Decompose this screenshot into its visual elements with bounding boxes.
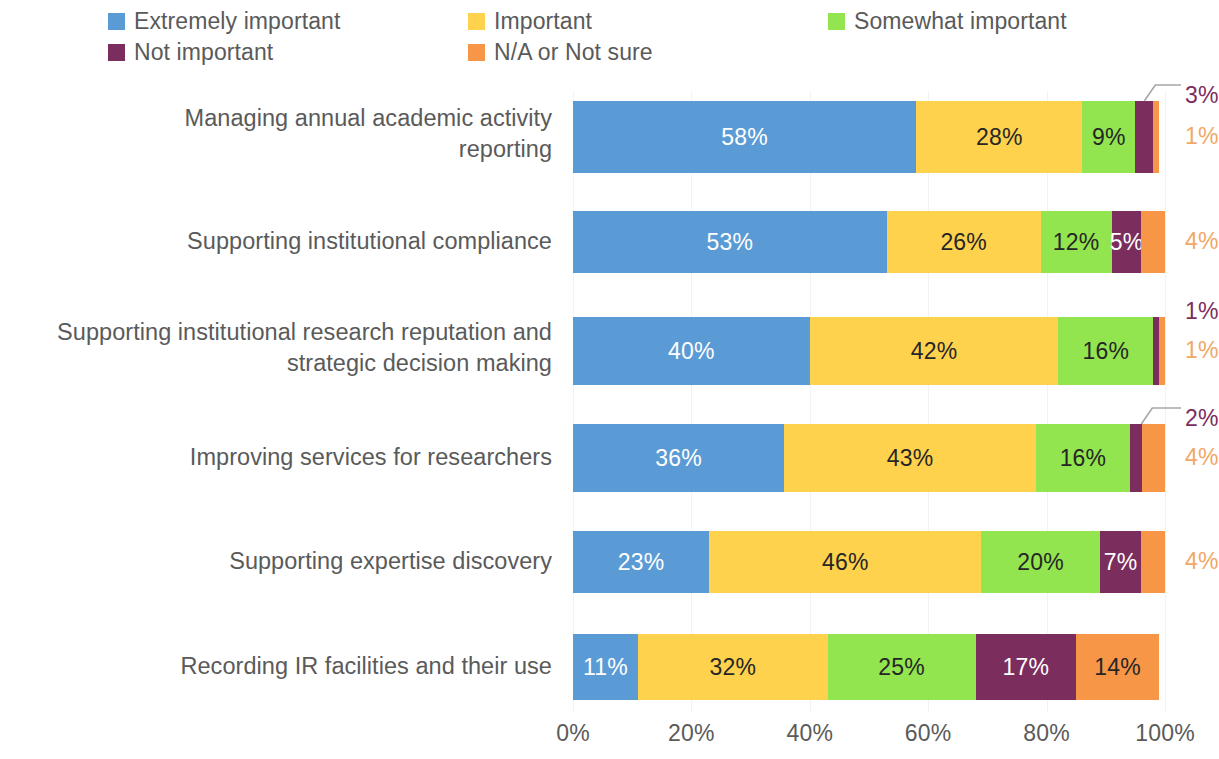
gridline-60 bbox=[928, 92, 929, 712]
bar-segment[interactable]: 23% bbox=[573, 531, 709, 593]
category-label: Improving services for researchers bbox=[0, 442, 552, 473]
segment-value-label: 28% bbox=[976, 126, 1023, 149]
bar-segment[interactable] bbox=[1141, 531, 1165, 593]
segment-value-label: 26% bbox=[940, 231, 987, 254]
bar-segment[interactable] bbox=[1135, 101, 1153, 173]
segment-value-label: 32% bbox=[710, 656, 757, 679]
x-axis-tick-label: 60% bbox=[905, 720, 952, 747]
segment-value-label: 7% bbox=[1104, 551, 1138, 574]
category-label: Managing annual academic activity report… bbox=[172, 103, 552, 164]
bar-segment[interactable]: 26% bbox=[887, 211, 1041, 273]
bar-segment[interactable]: 5% bbox=[1112, 211, 1142, 273]
x-axis-tick-label: 40% bbox=[786, 720, 833, 747]
bar-segment[interactable]: 7% bbox=[1100, 531, 1141, 593]
outside-label-na-not-sure: 4% bbox=[1185, 550, 1219, 573]
outside-label-na-not-sure: 4% bbox=[1185, 230, 1219, 253]
segment-value-label: 42% bbox=[911, 340, 958, 363]
gridline-20 bbox=[691, 92, 692, 712]
outside-label-not-important: 1% bbox=[1185, 300, 1219, 323]
bar-segment[interactable]: 42% bbox=[810, 317, 1059, 385]
bar-row[interactable]: 40%42%16% bbox=[573, 317, 1165, 385]
bar-row[interactable]: 36%43%16% bbox=[573, 424, 1165, 492]
segment-value-label: 5% bbox=[1110, 231, 1144, 254]
bar-segment[interactable] bbox=[1141, 211, 1165, 273]
gridline-0 bbox=[573, 92, 574, 712]
outside-label-not-important: 2% bbox=[1185, 407, 1219, 430]
outside-label-na-not-sure: 4% bbox=[1185, 446, 1219, 469]
bar-row[interactable]: 58%28%9% bbox=[573, 101, 1165, 173]
segment-value-label: 36% bbox=[655, 447, 702, 470]
segment-value-label: 16% bbox=[1060, 447, 1107, 470]
x-axis-tick-label: 80% bbox=[1023, 720, 1070, 747]
segment-value-label: 25% bbox=[878, 656, 925, 679]
outside-label-na-not-sure: 1% bbox=[1185, 125, 1219, 148]
segment-value-label: 9% bbox=[1092, 126, 1126, 149]
bar-segment[interactable] bbox=[1153, 101, 1159, 173]
bar-segment[interactable]: 17% bbox=[976, 634, 1077, 700]
bar-segment[interactable]: 58% bbox=[573, 101, 916, 173]
bar-segment[interactable]: 9% bbox=[1082, 101, 1135, 173]
gridline-80 bbox=[1047, 92, 1048, 712]
bar-row[interactable]: 11%32%25%17%14% bbox=[573, 634, 1165, 700]
segment-value-label: 53% bbox=[707, 231, 754, 254]
gridline-40 bbox=[810, 92, 811, 712]
bar-segment[interactable]: 12% bbox=[1041, 211, 1112, 273]
segment-value-label: 23% bbox=[618, 551, 665, 574]
segment-value-label: 12% bbox=[1053, 231, 1100, 254]
segment-value-label: 14% bbox=[1094, 656, 1141, 679]
segment-value-label: 11% bbox=[583, 656, 628, 679]
bar-segment[interactable]: 40% bbox=[573, 317, 810, 385]
gridline-100 bbox=[1165, 92, 1166, 712]
segment-value-label: 46% bbox=[822, 551, 869, 574]
segment-value-label: 58% bbox=[721, 126, 768, 149]
x-axis-tick-label: 0% bbox=[556, 720, 590, 747]
bar-row[interactable]: 23%46%20%7% bbox=[573, 531, 1165, 593]
segment-value-label: 20% bbox=[1017, 551, 1064, 574]
x-axis-tick-label: 20% bbox=[668, 720, 715, 747]
bar-segment[interactable]: 20% bbox=[981, 531, 1099, 593]
segment-value-label: 16% bbox=[1082, 340, 1129, 363]
x-axis: 0%20%40%60%80%100% bbox=[573, 720, 1165, 754]
bar-segment[interactable] bbox=[1130, 424, 1142, 492]
bar-segment[interactable] bbox=[1159, 317, 1165, 385]
segment-value-label: 40% bbox=[668, 340, 715, 363]
bar-segment[interactable]: 32% bbox=[638, 634, 827, 700]
segment-value-label: 17% bbox=[1003, 656, 1050, 679]
outside-label-na-not-sure: 1% bbox=[1185, 339, 1219, 362]
plot-area: 58%28%9%3%1%53%26%12%5%4%40%42%16%1%1%36… bbox=[573, 92, 1165, 712]
bar-segment[interactable]: 14% bbox=[1076, 634, 1159, 700]
bar-segment[interactable]: 46% bbox=[709, 531, 981, 593]
category-label: Supporting institutional compliance bbox=[0, 226, 552, 257]
bar-segment[interactable]: 28% bbox=[916, 101, 1082, 173]
outside-label-not-important: 3% bbox=[1185, 84, 1219, 107]
category-label: Supporting institutional research reputa… bbox=[0, 317, 552, 378]
bar-segment[interactable]: 36% bbox=[573, 424, 784, 492]
bar-segment[interactable]: 11% bbox=[573, 634, 638, 700]
bar-segment[interactable]: 25% bbox=[828, 634, 976, 700]
bar-segment[interactable]: 16% bbox=[1058, 317, 1153, 385]
x-axis-tick-label: 100% bbox=[1135, 720, 1195, 747]
bar-row[interactable]: 53%26%12%5% bbox=[573, 211, 1165, 273]
bar-segment[interactable]: 53% bbox=[573, 211, 887, 273]
bar-segment[interactable] bbox=[1142, 424, 1165, 492]
bar-segment[interactable]: 43% bbox=[784, 424, 1036, 492]
bar-segment[interactable]: 16% bbox=[1036, 424, 1130, 492]
category-label: Recording IR facilities and their use bbox=[0, 651, 552, 682]
segment-value-label: 43% bbox=[887, 447, 934, 470]
category-label: Supporting expertise discovery bbox=[0, 546, 552, 577]
